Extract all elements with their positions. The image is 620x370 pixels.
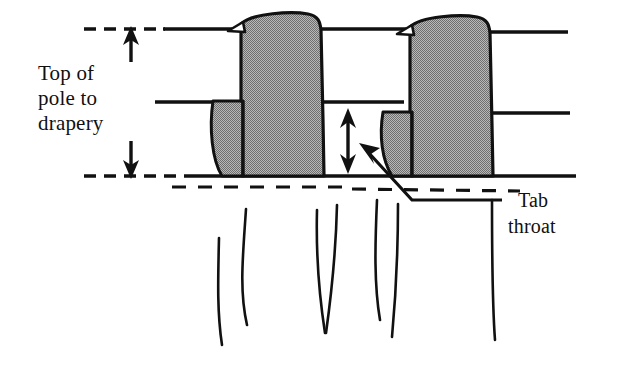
top-of-pole-label-line1: Top of xyxy=(38,61,94,85)
diagram-root: Drapery tab on pole — dimension diagram xyxy=(0,0,620,370)
top-of-pole-label-line3: drapery xyxy=(38,111,104,135)
tab-1-back-flap xyxy=(211,101,243,176)
tab-2-band xyxy=(410,16,493,176)
tab-1-band xyxy=(241,13,324,176)
drapery-tab-diagram: Drapery tab on pole — dimension diagram xyxy=(0,0,620,370)
tab-throat-label-line1: Tab xyxy=(518,189,548,211)
tab-throat-label-line2: throat xyxy=(508,215,556,237)
top-of-pole-label-line2: pole to xyxy=(38,86,97,110)
tab-2-back-flap xyxy=(381,112,412,176)
